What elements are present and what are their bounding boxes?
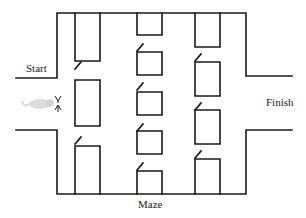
col1-door1 [75,62,81,69]
maze-diagram [0,0,306,218]
col3-door1 [195,54,201,61]
col3-box1 [195,13,220,47]
outer-top-wall [16,13,292,78]
col2-door3 [137,124,143,131]
col3-box3 [195,110,220,144]
col1-box2 [75,80,100,126]
col2-box2 [137,52,162,75]
col1-door2 [75,137,81,144]
outer-bottom-wall [16,130,292,194]
col3-box2 [195,62,220,96]
col1-box3 [75,146,100,194]
col2-box5 [137,171,162,194]
col3-box4 [195,159,220,194]
col1-box1 [75,13,100,61]
col2-box1 [137,13,162,35]
start-label: Start [26,62,47,74]
maze-walls [16,13,292,194]
col2-door2 [137,83,143,90]
mouse-icon [22,99,54,109]
col2-door4 [137,163,143,170]
col2-box4 [137,131,162,154]
col3-door3 [195,151,201,158]
gate-arrow-icon [55,96,61,112]
col2-box3 [137,92,162,115]
finish-label: Finish [266,96,294,108]
maze-caption: Maze [138,198,162,210]
col3-door2 [195,103,201,110]
col2-door1 [137,44,143,51]
